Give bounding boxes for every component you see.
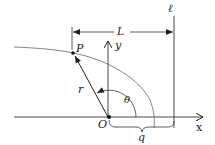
diagram-graphics bbox=[0, 0, 215, 145]
label-L: L bbox=[117, 26, 124, 37]
label-q: q bbox=[138, 132, 145, 143]
origin-point bbox=[107, 115, 111, 119]
conic-curve bbox=[14, 47, 154, 128]
polar-conic-diagram: P y L ℓ r θ O x q bbox=[0, 0, 215, 145]
label-theta: θ bbox=[124, 95, 130, 105]
point-P bbox=[71, 51, 75, 55]
label-ell: ℓ bbox=[168, 3, 173, 14]
label-y: y bbox=[115, 40, 121, 51]
label-x: x bbox=[196, 122, 202, 133]
theta-arc bbox=[97, 90, 136, 117]
label-r: r bbox=[78, 84, 83, 95]
label-O: O bbox=[98, 119, 107, 130]
label-P: P bbox=[76, 43, 83, 54]
